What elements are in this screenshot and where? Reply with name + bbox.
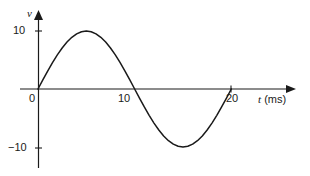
x-axis-label-variable: t <box>258 93 261 105</box>
x-tick-label-10: 10 <box>118 93 130 104</box>
x-tick-label-20: 20 <box>226 93 238 104</box>
y-tick-label-minus-10: −10 <box>8 142 27 153</box>
plot-canvas <box>0 0 310 176</box>
y-tick-label-10: 10 <box>13 25 25 36</box>
sine-waveform-figure: v t (ms) 10 −10 0 10 20 <box>0 0 310 176</box>
y-axis-arrowhead <box>34 10 43 20</box>
x-tick-label-0: 0 <box>29 93 35 104</box>
x-axis-label-unit: (ms) <box>264 93 286 105</box>
x-axis-arrowhead <box>286 85 296 93</box>
y-axis-label: v <box>27 8 32 19</box>
x-axis-label: t (ms) <box>258 94 286 105</box>
